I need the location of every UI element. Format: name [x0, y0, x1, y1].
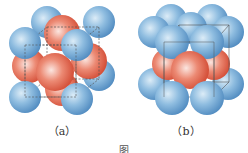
figure-panel-a: （a） — [0, 0, 124, 153]
figure-panel-b: （b） — [124, 0, 248, 153]
figure-caption: 图 — [0, 144, 248, 153]
layered-crystal-model — [124, 0, 248, 120]
panel-label-b: （b） — [124, 122, 248, 138]
panel-label-a: （a） — [0, 122, 124, 138]
fcc-crystal-model — [0, 0, 124, 120]
